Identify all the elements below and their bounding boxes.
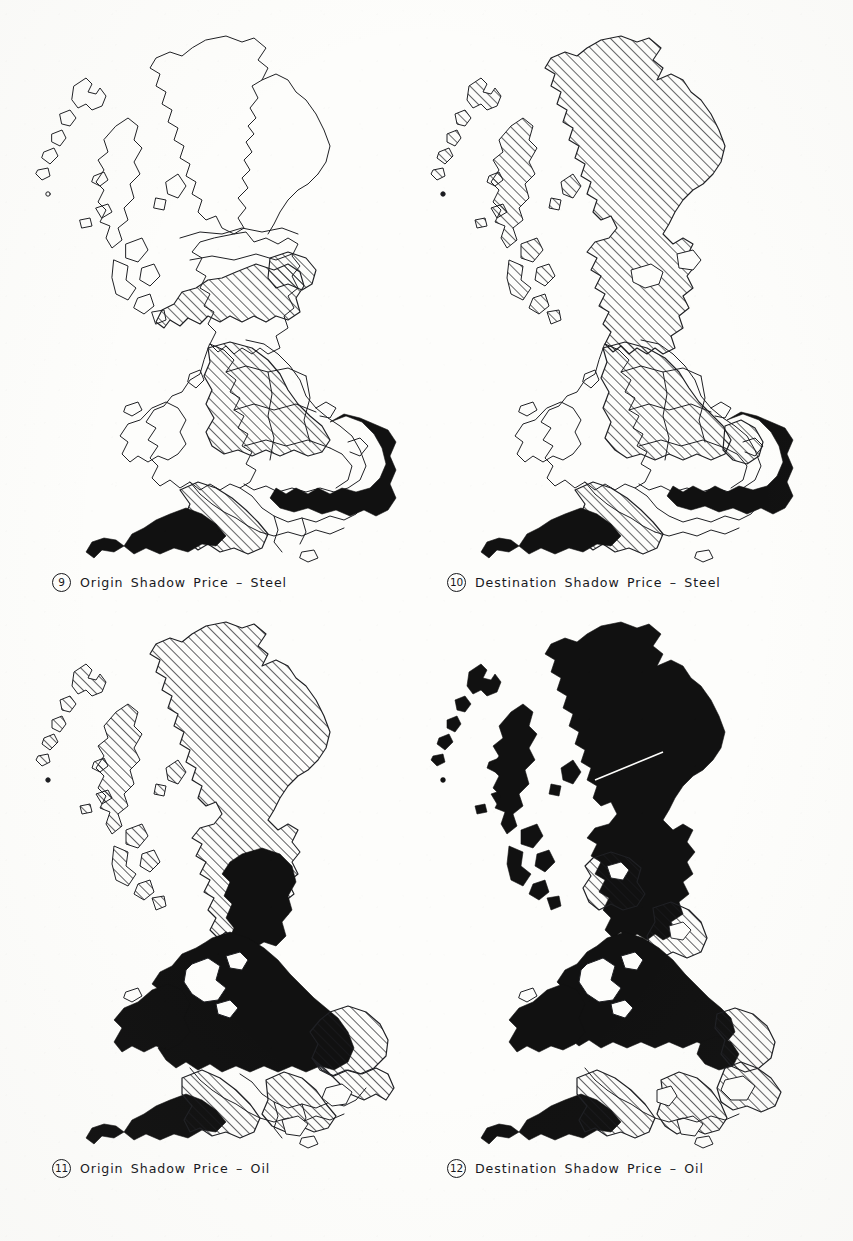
map-graphic-11 (30, 608, 426, 1153)
map-graphic-10 (425, 22, 821, 567)
figure-page: 9 Origin Shadow Price – Steel (0, 0, 853, 1241)
map-panel-destination-oil: 12 Destination Shadow Price – Oil (425, 608, 821, 1188)
caption-label: Destination Shadow Price – Steel (475, 575, 721, 590)
caption-panel-10: 10 Destination Shadow Price – Steel (447, 570, 721, 594)
caption-panel-9: 9 Origin Shadow Price – Steel (52, 570, 287, 594)
caption-panel-11: 11 Origin Shadow Price – Oil (52, 1156, 270, 1180)
figure-grid: 9 Origin Shadow Price – Steel (0, 0, 853, 1241)
caption-number-badge: 10 (447, 573, 466, 592)
map-panel-destination-steel: 10 Destination Shadow Price – Steel (425, 22, 821, 602)
map-graphic-9 (30, 22, 426, 567)
caption-panel-12: 12 Destination Shadow Price – Oil (447, 1156, 704, 1180)
caption-label: Origin Shadow Price – Oil (80, 1161, 270, 1176)
caption-number-badge: 12 (447, 1159, 466, 1178)
caption-number-badge: 11 (52, 1159, 71, 1178)
map-panel-origin-steel: 9 Origin Shadow Price – Steel (30, 22, 426, 602)
caption-number-badge: 9 (52, 573, 71, 592)
caption-label: Origin Shadow Price – Steel (80, 575, 287, 590)
caption-label: Destination Shadow Price – Oil (475, 1161, 704, 1176)
map-graphic-12 (425, 608, 821, 1153)
map-panel-origin-oil: 11 Origin Shadow Price – Oil (30, 608, 426, 1188)
